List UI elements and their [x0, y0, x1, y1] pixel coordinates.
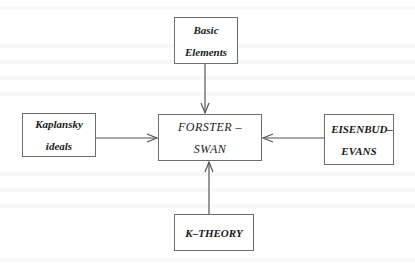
node-label-line: K–THEORY [185, 222, 242, 244]
node-label-line: SWAN [194, 138, 227, 160]
edge-basic-elements-to-forster-swan [201, 64, 209, 113]
background-bleed [0, 172, 415, 176]
background-bleed [0, 92, 415, 96]
node-label-line: FORSTER – [178, 116, 242, 138]
edge-kaplansky-to-forster-swan [96, 134, 157, 142]
edge-eisenbud-evans-to-forster-swan [263, 134, 324, 142]
background-bleed [0, 204, 415, 208]
node-k-theory: K–THEORY [174, 214, 254, 251]
background-bleed [0, 6, 415, 10]
node-basic-elements: Basic Elements [174, 17, 238, 64]
node-label-line: Kaplansky [35, 113, 83, 135]
node-label-line: Basic [193, 19, 218, 41]
background-bleed [0, 258, 415, 262]
node-label-line: EISENBUD– [331, 118, 393, 140]
node-label-line: ideals [46, 135, 72, 157]
node-eisenbud-evans: EISENBUD– EVANS [324, 114, 394, 165]
node-label-line: Elements [185, 41, 227, 63]
node-label-line: EVANS [341, 140, 376, 162]
node-kaplansky-ideals: Kaplansky ideals [22, 113, 96, 157]
background-bleed [0, 188, 415, 192]
node-forster-swan: FORSTER – SWAN [158, 114, 262, 161]
background-bleed [0, 76, 415, 80]
